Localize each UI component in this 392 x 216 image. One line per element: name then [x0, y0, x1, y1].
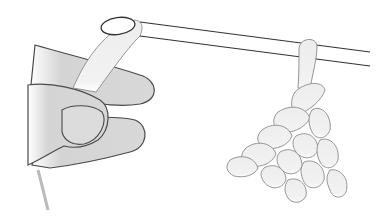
crochet-illustration — [0, 0, 392, 216]
illustration-canvas — [0, 0, 392, 216]
crochet-stitches — [227, 39, 347, 202]
crochet-hook — [140, 22, 370, 66]
